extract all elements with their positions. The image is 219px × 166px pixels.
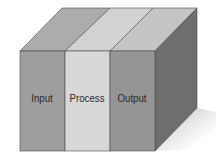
label-output: Output	[106, 92, 159, 104]
block-diagram	[0, 0, 219, 166]
